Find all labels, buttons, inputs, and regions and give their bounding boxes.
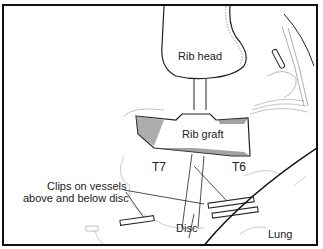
illustration-drawing xyxy=(4,6,318,246)
label-clips-line2: above and below disc xyxy=(23,192,129,204)
lung-outline xyxy=(202,146,318,246)
label-lung: Lung xyxy=(268,228,292,240)
label-rib-graft: Rib graft xyxy=(182,128,224,140)
label-t6: T6 xyxy=(232,161,246,173)
label-clips-line1: Clips on vessels xyxy=(47,180,126,192)
illustration-frame: Rib head Rib graft T7 T6 Clips on vessel… xyxy=(2,4,318,246)
clip-icon xyxy=(272,49,286,69)
clip-icon xyxy=(120,216,154,226)
label-rib-head: Rib head xyxy=(178,50,222,62)
clip-icon xyxy=(208,197,254,208)
rib-head-shape xyxy=(162,6,246,79)
label-disc: Disc xyxy=(176,222,197,234)
label-t7: T7 xyxy=(152,161,166,173)
